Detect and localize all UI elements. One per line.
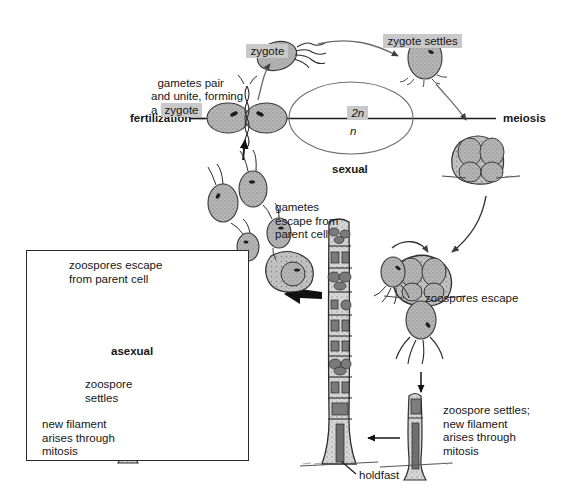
diploid-text: 2n [351,107,364,119]
gametes-pair-zygote-highlight: zygote [161,103,203,117]
inset-zoospore-settles-label: zoospore settles [85,378,132,405]
zoospores-escape-right-label: zoospores escape [425,292,518,306]
inset-asexual-label: asexual [111,345,153,359]
zoospore-flagellated [396,301,443,364]
holdfast-label: holdfast [359,469,399,483]
meiosis-sporangium [442,136,520,184]
diagram-canvas: fertilization meiosis gametes pair and u… [0,0,566,504]
haploid-label: n [350,125,356,139]
gametes-escape-label: gametes escape from parent cell [275,201,338,242]
gametes-pair-label: gametes pair and unite, forming a zygote [151,63,271,117]
zygote-label: zygote [246,44,288,58]
meiosis-label: meiosis [503,112,546,126]
zygote-label-wrap: zygote [240,31,288,58]
inset-zoospores-escape-label: zoospores escape from parent cell [69,259,162,286]
zygote-settles-label: zygote settles [383,34,461,48]
sexual-cycle-label: sexual [332,163,368,177]
arrow-meiosis-to-zoospores [452,196,486,252]
diploid-label-wrap: 2n [341,93,368,120]
arrow-filament-to-sporangium [392,242,428,252]
zygote-settles-label-wrap: zygote settles [377,21,462,48]
arrow-to-meiosis [436,84,466,120]
zoospore-settles-right-label: zoospore settles; new filament arises th… [443,404,530,458]
diploid-label: 2n [347,106,368,120]
inset-new-filament-label: new filament arises through mitosis [42,418,115,459]
parent-filament [300,219,378,466]
